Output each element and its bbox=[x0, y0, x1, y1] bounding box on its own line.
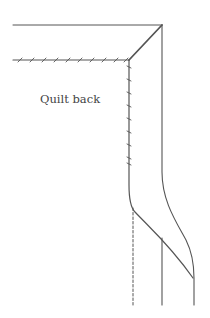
binding-corner-diagram bbox=[0, 0, 210, 318]
mitered-corner-diagonal bbox=[129, 25, 162, 60]
stitched-side-binding-line bbox=[129, 60, 193, 278]
outer-binding-edge bbox=[162, 25, 194, 305]
quilt-back-label: Quilt back bbox=[40, 92, 100, 106]
